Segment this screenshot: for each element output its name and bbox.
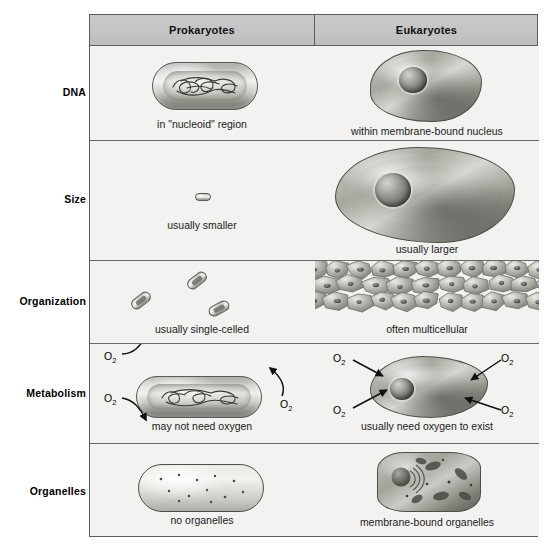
comparison-figure: DNA Size Organization Metabolism Organel…	[0, 0, 551, 559]
empty-prokaryote-cell	[138, 464, 264, 512]
table-row-size: usually smaller usually larger	[90, 141, 539, 261]
row-label-dna: DNA	[0, 87, 86, 99]
cell-dna-eukaryotes: within membrane-bound nucleus	[315, 46, 539, 140]
row-label-size: Size	[0, 194, 86, 206]
row-label-organization: Organization	[0, 296, 86, 308]
prokaryote-cell-small-scale	[195, 193, 211, 201]
free-prokaryote-cell-2	[185, 269, 209, 291]
caption-dna-prokaryotes: in "nucleoid" region	[90, 118, 314, 130]
free-prokaryote-cell-3	[207, 298, 232, 318]
table-header: Prokaryotes Eukaryotes	[90, 15, 537, 46]
ribosome-dots	[139, 465, 263, 511]
row-label-metabolism: Metabolism	[0, 388, 86, 400]
nucleus	[375, 173, 411, 207]
cell-metabolism-prokaryotes: O2 O2 O2 may not need oxygen	[90, 344, 314, 443]
cell-organelles-prokaryotes: no organelles	[90, 444, 314, 536]
table-row-organelles: no organelles	[90, 444, 539, 536]
caption-organization-prokaryotes: usually single-celled	[90, 323, 314, 335]
caption-metabolism-eukaryotes: usually need oxygen to exist	[315, 420, 539, 432]
table-row-organization: usually single-celled	[90, 261, 539, 344]
nucleus	[399, 67, 427, 93]
column-header-prokaryotes: Prokaryotes	[90, 15, 314, 45]
caption-organization-eukaryotes: often multicellular	[315, 323, 539, 335]
comparison-table: Prokaryotes Eukaryotes	[89, 14, 538, 537]
caption-metabolism-prokaryotes: may not need oxygen	[90, 420, 314, 432]
table-row-dna: in "nucleoid" region within membrane-bou…	[90, 46, 539, 141]
eukaryote-cell-large-scale	[335, 147, 515, 243]
cell-dna-prokaryotes: in "nucleoid" region	[90, 46, 314, 140]
caption-dna-eukaryotes: within membrane-bound nucleus	[315, 125, 539, 137]
cell-organelles-eukaryotes: membrane-bound organelles	[315, 444, 539, 536]
prokaryote-cell-body	[152, 62, 258, 110]
cell-organization-prokaryotes: usually single-celled	[90, 261, 314, 343]
header-column-divider	[314, 15, 315, 46]
tissue-cells	[315, 261, 539, 315]
caption-size-eukaryotes: usually larger	[315, 243, 539, 255]
eukaryote-cell-with-organelles	[377, 452, 481, 512]
row-label-organelles: Organelles	[0, 486, 86, 498]
cell-metabolism-eukaryotes: O2 O2 O2 O2	[315, 344, 539, 443]
eukaryote-cell-body	[370, 50, 482, 122]
table-row-metabolism: O2 O2 O2 may not need oxygen	[90, 344, 539, 444]
free-prokaryote-cell-1	[129, 289, 153, 311]
nucleoid-dna-tangle	[167, 73, 243, 99]
caption-organelles-prokaryotes: no organelles	[90, 514, 314, 526]
eukaryotic-tissue-sheet	[315, 261, 539, 315]
cell-size-prokaryotes: usually smaller	[90, 141, 314, 260]
caption-organelles-eukaryotes: membrane-bound organelles	[315, 516, 539, 528]
cell-organization-eukaryotes: often multicellular	[315, 261, 539, 343]
organelle-shapes	[377, 452, 481, 512]
caption-size-prokaryotes: usually smaller	[90, 219, 314, 231]
column-header-eukaryotes: Eukaryotes	[314, 15, 539, 45]
cell-size-eukaryotes: usually larger	[315, 141, 539, 260]
